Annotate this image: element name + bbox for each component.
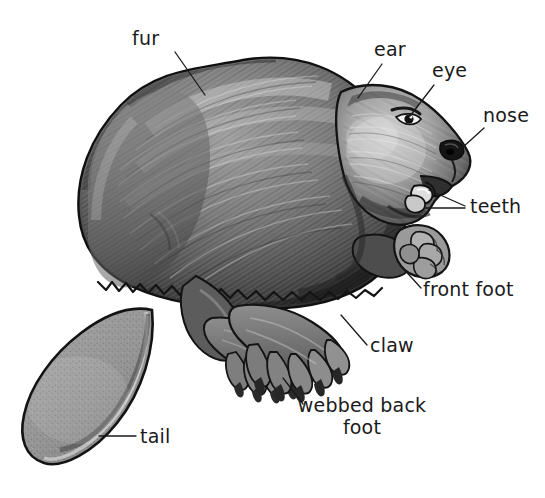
label-eye: eye	[432, 59, 467, 81]
beaver-anatomy-diagram: fur ear eye nose teeth front foot claw w…	[0, 0, 545, 498]
leader-nose	[462, 128, 484, 148]
label-tail: tail	[140, 425, 170, 447]
label-front-foot: front foot	[423, 278, 514, 300]
label-webbed-back-foot-line2: foot	[343, 416, 381, 438]
label-webbed-back-foot-line1: webbed back	[298, 394, 427, 416]
beaver-tail	[10, 295, 180, 485]
label-teeth: teeth	[470, 195, 521, 217]
label-claw: claw	[370, 334, 414, 356]
label-nose: nose	[483, 104, 529, 126]
beaver-illustration	[10, 40, 490, 485]
leader-claw	[341, 315, 367, 345]
label-fur: fur	[132, 27, 159, 49]
label-ear: ear	[374, 38, 406, 60]
diagram-canvas: fur ear eye nose teeth front foot claw w…	[0, 0, 545, 498]
